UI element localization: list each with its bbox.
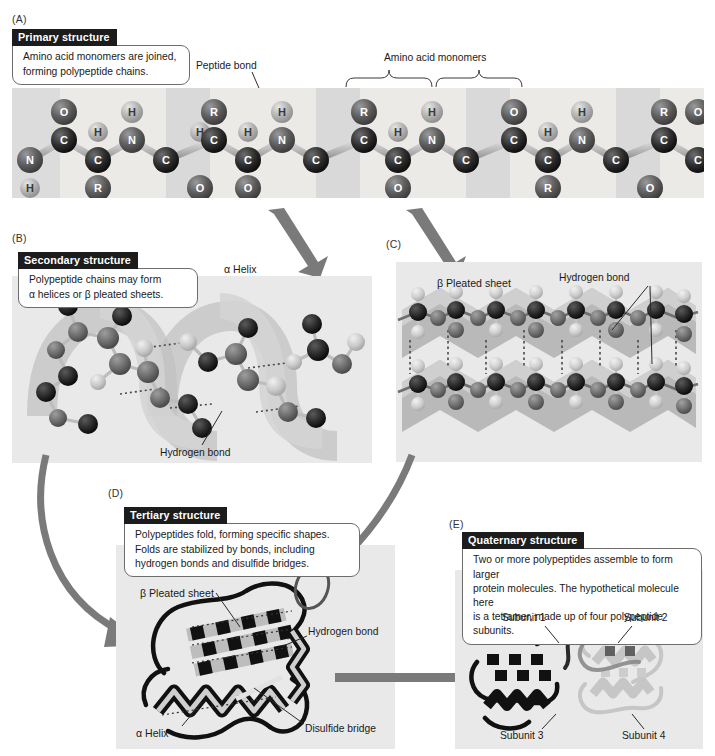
panel-label-c: (C) [386,238,401,250]
svg-text:C: C [462,154,470,166]
svg-text:R: R [544,182,552,194]
svg-text:H: H [244,126,252,138]
svg-text:O: O [244,182,253,194]
svg-text:H: H [578,106,586,118]
leader-subunit-3 [540,712,560,732]
svg-text:C: C [312,154,320,166]
label-hydrogen-bond-d: Hydrogen bond [308,626,378,637]
callout-tab-secondary: Secondary structure [18,252,138,270]
secondary-body-line2: α helices or β pleated sheets. [29,288,188,302]
leader-subunit-1 [543,624,563,646]
svg-text:N: N [428,134,436,146]
label-hydrogen-bond-c: Hydrogen bond [559,272,629,283]
callout-primary-structure: Primary structure Amino acid monomers ar… [12,27,190,85]
svg-text:C: C [510,134,518,146]
svg-text:R: R [660,106,668,118]
svg-text:R: R [210,106,218,118]
svg-text:N: N [278,134,286,146]
svg-text:O: O [60,106,69,118]
label-amino-acid-monomers: Amino acid monomers [384,52,486,63]
svg-text:H: H [278,106,286,118]
svg-text:C: C [60,134,68,146]
svg-text:O: O [694,106,703,118]
panel-label-e: (E) [449,518,464,530]
callout-body-primary: Amino acid monomers are joined, forming … [12,45,190,84]
leader-alpha-helix-d [178,700,206,730]
leader-hydrogen-bond-d [281,634,311,650]
label-disulfide-bridge: Disulfide bridge [305,723,376,734]
svg-text:H: H [94,126,102,138]
quaternary-body-line1: Two or more polypeptides assemble to for… [473,553,692,581]
label-subunit-3: Subunit 3 [500,730,544,741]
quaternary-body-line2: protein molecules. The hypothetical mole… [473,582,692,610]
svg-text:O: O [394,182,403,194]
panel-label-d: (D) [108,487,123,499]
arrow-primary-to-secondary [262,208,332,278]
svg-text:H: H [128,106,136,118]
callout-tab-primary: Primary structure [12,29,117,47]
tertiary-body-line1: Polypeptides fold, forming specific shap… [135,528,350,542]
svg-text:N: N [128,134,136,146]
svg-text:O: O [646,182,655,194]
leader-subunit-4 [628,712,648,732]
secondary-body-line1: Polypeptide chains may form [29,273,188,287]
primary-body-line2: forming polypeptide chains. [23,65,180,79]
label-subunit-1: Subunit 1 [502,612,546,623]
callout-body-tertiary: Polypeptides fold, forming specific shap… [124,523,360,577]
svg-text:C: C [544,154,552,166]
svg-text:C: C [94,154,102,166]
tertiary-body-line2: Folds are stabilized by bonds, including [135,543,350,557]
leader-beta-sheet-d [214,591,248,631]
svg-text:C: C [660,134,668,146]
svg-text:C: C [244,154,252,166]
callout-tertiary-structure: Tertiary structure Polypeptides fold, fo… [124,505,360,577]
svg-text:C: C [360,134,368,146]
svg-text:O: O [510,106,519,118]
svg-text:C: C [394,154,402,166]
tertiary-body-line3: hydrogen bonds and disulfide bridges. [135,557,350,571]
callout-tab-tertiary: Tertiary structure [124,507,227,525]
svg-text:R: R [94,182,102,194]
svg-text:C: C [162,154,170,166]
leader-subunit-2 [616,624,636,646]
callout-tab-quaternary: Quaternary structure [462,532,584,550]
svg-text:C: C [612,154,620,166]
callout-body-secondary: Polypeptide chains may form α helices or… [18,268,198,307]
label-subunit-2: Subunit 2 [624,612,668,623]
label-peptide-bond: Peptide bond [196,60,257,71]
leader-disulfide-bridge [250,686,308,728]
leader-hydrogen-bond-b [196,409,226,449]
callout-secondary-structure: Secondary structure Polypeptide chains m… [18,250,198,308]
svg-text:O: O [196,182,205,194]
primary-body-line1: Amino acid monomers are joined, [23,50,180,64]
label-alpha-helix-b: α Helix [224,263,257,275]
protein-structure-figure: (A) Primary structure Amino acid monomer… [0,0,715,756]
leader-hydrogen-bond-c [602,284,662,368]
svg-text:N: N [26,154,34,166]
svg-text:H: H [26,182,34,194]
svg-text:H: H [394,126,402,138]
svg-text:C: C [694,154,702,166]
svg-text:N: N [578,134,586,146]
svg-text:H: H [428,106,436,118]
svg-text:R: R [360,106,368,118]
panel-label-b: (B) [12,232,27,244]
svg-text:C: C [210,134,218,146]
callout-body-quaternary: Two or more polypeptides assemble to for… [462,548,702,644]
callout-quaternary-structure: Quaternary structure Two or more polypep… [462,530,702,645]
label-beta-pleated-sheet-c: β Pleated sheet [437,277,511,289]
label-alpha-helix-d: α Helix [136,727,169,739]
svg-text:H: H [544,126,552,138]
bracket-amino-acid-monomers [345,68,520,88]
primary-structure-model: N H O C H C R H N C H R C O C O H N H [12,88,704,198]
panel-label-a: (A) [12,13,27,25]
label-beta-pleated-sheet-d: β Pleated sheet [140,587,214,599]
